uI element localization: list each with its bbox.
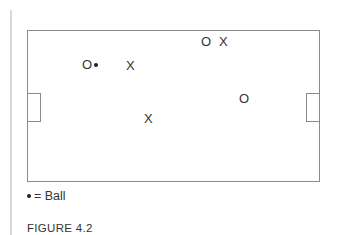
- legend-text: = Ball: [34, 189, 66, 203]
- margin-rule: [10, 10, 12, 235]
- player-x-2: X: [219, 35, 228, 48]
- left-goal: [27, 93, 41, 122]
- player-x-1: X: [126, 59, 135, 72]
- soccer-field: [27, 30, 320, 182]
- player-o-1: O: [82, 58, 92, 71]
- figure-caption: FIGURE 4.2: [27, 222, 93, 234]
- player-o-2: O: [201, 35, 211, 48]
- ball-icon: [94, 63, 98, 67]
- ball-legend-icon: [27, 194, 31, 198]
- legend: = Ball: [27, 189, 66, 203]
- right-goal: [306, 93, 320, 122]
- player-o-3: O: [239, 92, 249, 105]
- player-x-3: X: [144, 112, 153, 125]
